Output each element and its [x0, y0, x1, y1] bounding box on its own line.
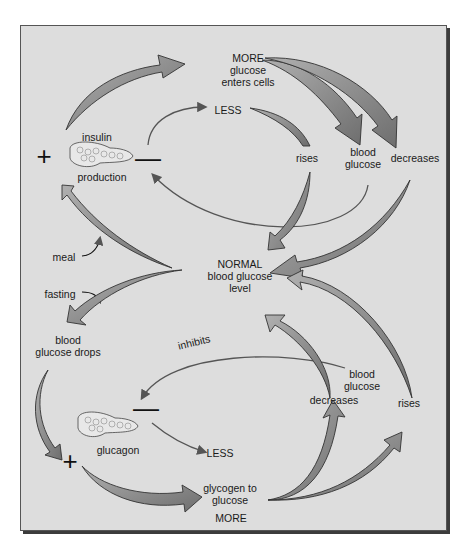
label-blood-glucose-top: blood glucose [345, 146, 381, 170]
label-normal-blood-glucose-level: NORMAL blood glucose level [208, 258, 273, 294]
arrow-plus-to-glycogen [82, 466, 202, 512]
plus-sign-top: + [36, 143, 51, 169]
label-rises-bottom: rises [398, 397, 420, 409]
pancreas-glucagon-icon [78, 412, 138, 437]
pancreas-insulin-icon [70, 142, 133, 167]
arrow-normal-to-insulin [62, 185, 172, 268]
top-loop-line [148, 107, 205, 145]
arrow-less-to-rises [250, 108, 310, 146]
label-less-top: LESS [215, 104, 242, 116]
arrow-rises-to-normal [268, 172, 310, 250]
arrow-drops-to-glucagon [35, 370, 62, 460]
top-return-line [153, 175, 368, 227]
label-blood-glucose-drops: blood glucose drops [35, 334, 100, 358]
minus-sign-bottom: — [133, 395, 159, 421]
diagram-stage: + — + — MORE glucose enters cells LESS i… [0, 0, 459, 548]
label-more-bottom: MORE [215, 512, 247, 524]
plus-sign-bottom: + [62, 448, 77, 474]
arrow-glycogen-to-decreases [268, 400, 345, 500]
label-blood-glucose-bottom: blood glucose [344, 368, 380, 392]
bottom-less-line [152, 423, 205, 452]
minus-sign-top: — [135, 145, 161, 171]
label-less-bottom: LESS [207, 447, 234, 459]
label-glycogen-to-glucose: glycogen to glucose [203, 482, 257, 506]
label-more-glucose-enters-cells: MORE glucose enters cells [221, 52, 274, 88]
arrow-insulin-to-more [66, 55, 185, 130]
label-insulin: insulin [82, 131, 112, 143]
label-production: production [77, 171, 126, 183]
arrow-glycogen-to-rises [268, 432, 402, 500]
label-decreases-top: decreases [391, 152, 439, 164]
label-meal: meal [53, 251, 76, 263]
label-fasting: fasting [45, 288, 76, 300]
arrow-normal-to-drops [67, 270, 182, 325]
label-glucagon: glucagon [97, 444, 140, 456]
meal-small-arrow [82, 238, 100, 256]
label-decreases-bottom: decreases [310, 394, 358, 406]
label-rises-top: rises [296, 152, 318, 164]
